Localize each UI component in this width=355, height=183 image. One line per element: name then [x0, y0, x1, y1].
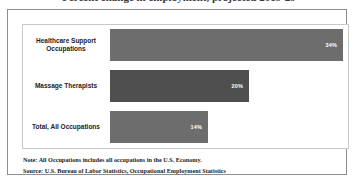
footnote-note: Note: All Occupations includes all occup…	[23, 154, 333, 165]
bar-row: Healthcare Support Occupations 34%	[23, 29, 348, 61]
category-label-line2: Occupations	[46, 45, 85, 52]
bar-value-label: 14%	[190, 124, 202, 130]
category-label-line1: Total, All Occupations	[32, 123, 100, 131]
chart-footnotes: Note: All Occupations includes all occup…	[23, 154, 333, 177]
bar-massage-therapists: 20%	[110, 70, 249, 102]
plot-area: Healthcare Support Occupations 34% Massa…	[22, 24, 349, 149]
chart-figure: Percent change in employment, projected …	[0, 0, 355, 183]
bar-value-label: 20%	[231, 83, 243, 89]
category-label-massage-therapists: Massage Therapists	[25, 70, 107, 102]
bar-total-all-occupations: 14%	[110, 111, 208, 143]
footnote-source: Source: U.S. Bureau of Labor Statistics,…	[23, 165, 333, 176]
category-label-healthcare-support-occupations: Healthcare Support Occupations	[25, 29, 107, 61]
figure-outer-border: Healthcare Support Occupations 34% Massa…	[7, 9, 347, 175]
bar-value-label: 34%	[325, 42, 337, 48]
plot-inner: Healthcare Support Occupations 34% Massa…	[23, 25, 348, 148]
category-label-line1: Healthcare Support	[36, 37, 96, 44]
chart-title-strip: Percent change in employment, projected …	[0, 0, 355, 8]
bar-row: Massage Therapists 20%	[23, 70, 348, 102]
chart-title: Percent change in employment, projected …	[34, 0, 324, 3]
bar-row: Total, All Occupations 14%	[23, 111, 348, 143]
category-label-total-all-occupations: Total, All Occupations	[25, 111, 107, 143]
category-label-line1: Massage Therapists	[35, 82, 97, 90]
bar-healthcare-support-occupations: 34%	[110, 29, 343, 61]
